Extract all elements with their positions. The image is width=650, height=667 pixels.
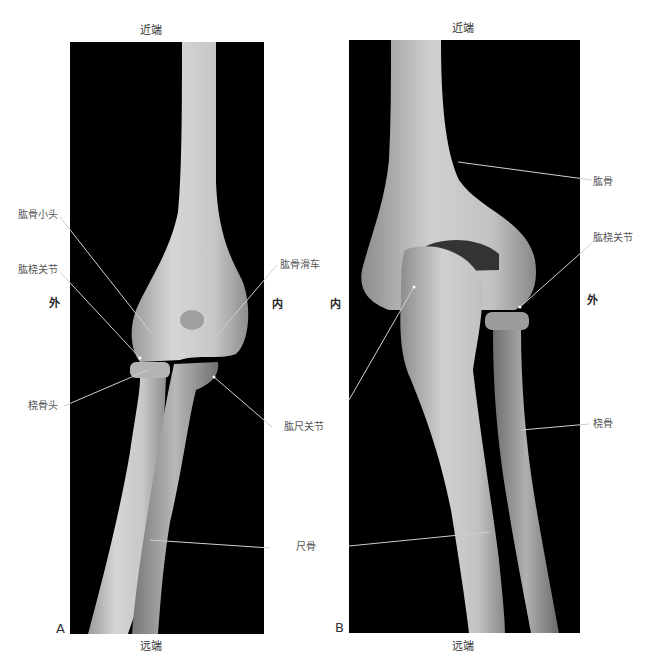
panel-a-tag: A [56, 622, 65, 636]
panel-a-anterior-view [70, 42, 264, 634]
panel-b-proximal-label: 近端 [452, 22, 474, 35]
panel-a-medial-label: 内 [272, 298, 283, 311]
label-capitulum: 肱骨小头 [18, 209, 58, 221]
label-humerus: 肱骨 [593, 176, 613, 188]
elbow-bones-anterior-image [70, 42, 264, 634]
label-radius: 桡骨 [593, 418, 613, 430]
panel-a-proximal-label: 近端 [140, 24, 162, 37]
label-humeroradial-joint-b: 肱桡关节 [593, 232, 633, 244]
label-humeroradial-joint-a: 肱桡关节 [18, 264, 58, 276]
panel-b-tag: B [335, 621, 344, 635]
label-humeroulnar-joint: 肱尺关节 [284, 421, 324, 433]
panel-b-lateral-label: 外 [587, 294, 598, 307]
panel-b-distal-label: 远端 [452, 640, 474, 653]
label-ulna: 尺骨 [296, 541, 316, 553]
panel-b-lateral-view [349, 40, 580, 633]
label-trochlea: 肱骨滑车 [280, 259, 320, 271]
elbow-bones-lateral-image [349, 40, 580, 633]
panel-a-lateral-label: 外 [49, 297, 60, 310]
panel-a-distal-label: 远端 [140, 640, 162, 653]
label-radial-head: 桡骨头 [28, 400, 58, 412]
panel-b-medial-label: 内 [330, 298, 341, 311]
